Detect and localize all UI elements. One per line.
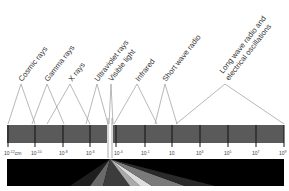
tick-label: 107	[252, 150, 260, 157]
tick-label: 10	[169, 150, 175, 156]
tick-labels: 10-12cm 10-10 10-8 10-6 10-4 10-1 10 103…	[4, 150, 287, 157]
tick-label: 109	[279, 150, 287, 157]
tick-label: 103	[196, 150, 204, 157]
tick-label: 10-1	[141, 150, 150, 157]
tick-label: 10-8	[59, 150, 68, 157]
label-infrared: Infrared	[133, 57, 156, 83]
dispersion-band	[7, 159, 284, 186]
tick-label: 105	[224, 150, 232, 157]
band-labels: Cosmic rays Gamma rays X rays Ultraviole…	[16, 14, 273, 83]
leader-lines	[8, 84, 284, 124]
tick-label: 10-6	[86, 150, 95, 157]
label-x-rays: X rays	[66, 61, 86, 84]
tick-label: 10-10	[31, 150, 42, 157]
tick-label: 10-4	[114, 150, 123, 157]
spectrum-diagram: 10-12cm 10-10 10-8 10-6 10-4 10-1 10 103…	[0, 0, 289, 191]
label-short-wave-radio: Short wave radio	[160, 33, 202, 83]
tick-label: 10-12cm	[4, 150, 21, 157]
